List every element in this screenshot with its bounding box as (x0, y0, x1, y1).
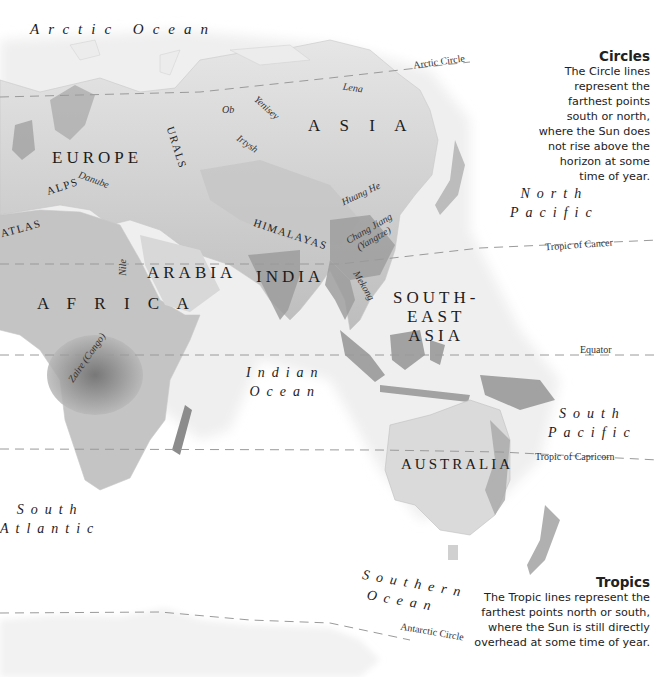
africa-label: A F R I C A (37, 294, 196, 314)
south-atlantic-line-2: Atlantic (0, 519, 100, 538)
southeast-asia-line-2: EAST (393, 307, 479, 326)
tropics-legend-text: where the Sun is still directly (474, 620, 650, 635)
southeast-asia-line-3: ASIA (393, 326, 479, 345)
antarctica-landmass (0, 608, 380, 677)
circles-legend-text: not rise above the (539, 139, 650, 154)
circles-legend: Circles The Circle lines represent the f… (539, 48, 650, 184)
southeast-asia-label: SOUTH- EAST ASIA (393, 288, 479, 345)
circles-legend-title: Circles (539, 48, 650, 64)
circles-legend-text: The Circle lines (539, 64, 650, 79)
south-pacific-label: South Pacific (548, 404, 637, 442)
equator-label: Equator (580, 344, 612, 355)
tropics-legend-text: The Tropic lines represent the (474, 590, 650, 605)
south-pacific-line-1: South (548, 404, 637, 423)
circles-legend-text: time of year. (539, 169, 650, 184)
asia-label: A S I A (308, 116, 415, 136)
circles-legend-text: represent the (539, 79, 650, 94)
nile-label: Nile (117, 259, 128, 276)
tropics-legend-title: Tropics (474, 574, 650, 590)
indian-ocean-line-1: Indian (246, 363, 325, 382)
south-atlantic-line-1: South (0, 500, 100, 519)
southeast-asia-line-1: SOUTH- (393, 288, 479, 307)
south-pacific-line-2: Pacific (548, 423, 637, 442)
new-zealand (527, 505, 560, 575)
world-map: Arctic Ocean North Pacific Indian Ocean … (0, 0, 658, 677)
tropics-legend-text: overhead at some time of year. (474, 635, 650, 650)
tropics-legend-text: farthest points north or south, (474, 605, 650, 620)
ob-label: Ob (222, 104, 234, 115)
north-pacific-label: North Pacific (510, 184, 599, 222)
arctic-ocean-label: Arctic Ocean (30, 20, 217, 39)
circles-legend-text: where the Sun does (539, 124, 650, 139)
india-label: INDIA (256, 267, 324, 287)
australia-label: AUSTRALIA (401, 456, 513, 473)
tropic-of-capricorn-label: Tropic of Capricorn (535, 451, 615, 462)
indian-ocean-label: Indian Ocean (246, 363, 325, 401)
arabia-label: ARABIA (147, 263, 236, 283)
north-pacific-line-1: North (510, 184, 599, 203)
circles-legend-text: farthest points (539, 94, 650, 109)
circles-legend-text: south or north, (539, 109, 650, 124)
tropics-legend: Tropics The Tropic lines represent the f… (474, 574, 650, 650)
indian-ocean-line-2: Ocean (246, 382, 325, 401)
south-atlantic-label: South Atlantic (0, 500, 100, 538)
europe-label: EUROPE (52, 148, 142, 168)
north-pacific-line-2: Pacific (510, 203, 599, 222)
circles-legend-text: horizon at some (539, 154, 650, 169)
